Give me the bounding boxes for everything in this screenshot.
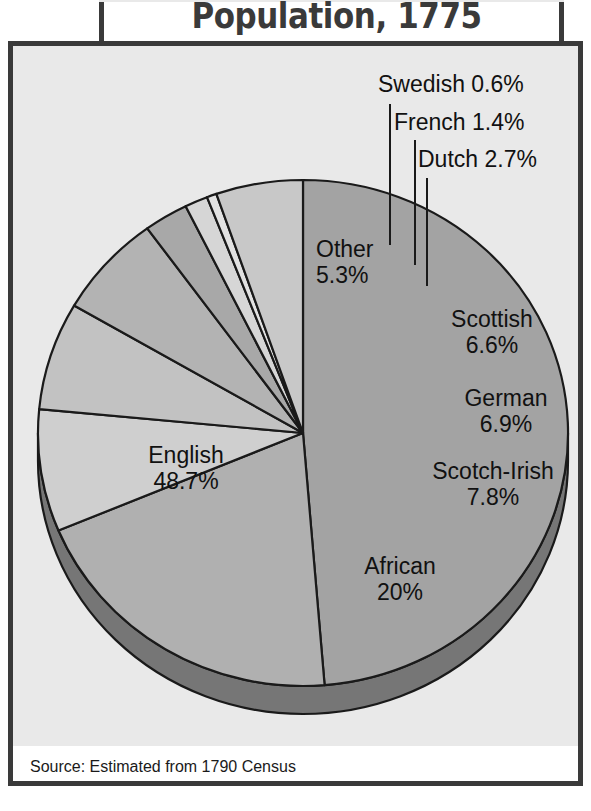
slice-label-english-name: English: [121, 443, 251, 469]
chart-page: Population, 1775 English 48.7% African 2: [0, 0, 591, 811]
slice-label-other: Other 5.3%: [316, 237, 426, 289]
frame-outer-right-gap: [583, 0, 591, 811]
frame-outer-bottom-gap: [0, 786, 591, 811]
slice-label-german-name: German: [441, 386, 571, 412]
callout-label-swedish: Swedish 0.6%: [378, 71, 524, 98]
slice-label-scotch-irish: Scotch-Irish 7.8%: [413, 459, 573, 511]
slice-label-scotch-irish-name: Scotch-Irish: [413, 459, 573, 485]
title-box: Population, 1775: [99, 2, 564, 46]
slice-label-african: African 20%: [335, 554, 465, 606]
frame-top-left-gap: [0, 0, 99, 41]
slice-label-scottish-value: 6.6%: [429, 333, 555, 359]
callout-label-french: French 1.4%: [394, 109, 524, 136]
slice-label-german: German 6.9%: [441, 386, 571, 438]
callout-label-dutch: Dutch 2.7%: [418, 146, 537, 173]
page-title: Population, 1775: [137, 0, 537, 36]
frame-outer-left-gap: [0, 0, 8, 811]
slice-label-other-value: 5.3%: [316, 263, 426, 289]
slice-label-scottish-name: Scottish: [429, 307, 555, 333]
slice-label-english: English 48.7%: [121, 443, 251, 495]
slice-label-scotch-irish-value: 7.8%: [413, 485, 573, 511]
slice-label-german-value: 6.9%: [441, 412, 571, 438]
slice-label-african-value: 20%: [335, 580, 465, 606]
source-note: Source: Estimated from 1790 Census: [30, 758, 296, 776]
slice-label-other-name: Other: [316, 237, 426, 263]
slice-label-african-name: African: [335, 554, 465, 580]
slice-label-english-value: 48.7%: [121, 469, 251, 495]
slice-label-scottish: Scottish 6.6%: [429, 307, 555, 359]
